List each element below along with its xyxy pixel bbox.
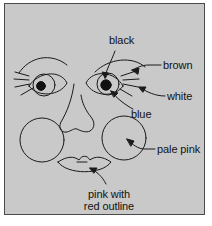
figure-root: black brown white blue pale pink pink wi… — [0, 0, 212, 226]
face-diagram-svg — [5, 4, 204, 214]
right-eyelashes — [120, 71, 139, 96]
nose — [60, 84, 94, 132]
leader-white — [139, 87, 165, 96]
label-pale-pink: pale pink — [157, 143, 200, 155]
lips — [58, 156, 111, 172]
left-eyelashes — [14, 72, 33, 95]
left-pupil — [37, 82, 46, 91]
label-pink-with-red-outline: pink with red outline — [57, 188, 161, 212]
right-pupil — [101, 80, 111, 90]
left-eyebrow — [19, 58, 67, 73]
right-cheek-circle — [102, 116, 146, 160]
leader-blue — [111, 91, 133, 109]
left-cheek-circle — [20, 118, 64, 162]
label-white: white — [167, 90, 192, 102]
label-pink-with-red-outline-line2: red outline — [57, 200, 161, 212]
label-brown: brown — [163, 59, 192, 71]
leader-brown — [132, 65, 161, 74]
label-black: black — [109, 34, 134, 46]
leader-pale-pink — [127, 139, 155, 149]
label-blue: blue — [131, 108, 151, 120]
diagram-panel: black brown white blue pale pink pink wi… — [4, 3, 205, 215]
label-pink-with-red-outline-line1: pink with — [57, 188, 161, 200]
